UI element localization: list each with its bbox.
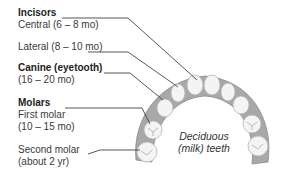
tooth-second-molar-right xyxy=(248,136,268,156)
tooth-first-molar-right xyxy=(243,115,261,133)
label-second-molar: Second molar xyxy=(18,144,80,156)
tooth-first-molar-left xyxy=(144,121,162,139)
tooth-canine-right xyxy=(233,96,249,114)
tooth-canine-left xyxy=(157,99,173,117)
label-incisors-heading: Incisors xyxy=(18,7,56,19)
tooth-central-right xyxy=(204,75,220,95)
label-central-age: Central (6 – 8 mo) xyxy=(18,19,99,31)
leader-molars xyxy=(65,108,150,124)
tooth-second-molar-left xyxy=(137,142,157,162)
label-canine-age: (16 – 20 mo) xyxy=(18,74,75,86)
label-second-molar-age: (about 2 yr) xyxy=(18,156,69,168)
label-molars-heading: Molars xyxy=(18,97,50,109)
caption-deciduous: Deciduous xyxy=(172,130,236,142)
label-first-molar-age: (10 – 15 mo) xyxy=(18,121,75,133)
leader-second-molar xyxy=(88,150,140,154)
label-canine-heading: Canine (eyetooth) xyxy=(18,62,102,74)
leader-canine xyxy=(104,73,163,100)
label-lateral-age: Lateral (8 – 10 mo) xyxy=(18,41,103,53)
label-first-molar: First molar xyxy=(18,109,65,121)
caption-milk-teeth: (milk) teeth xyxy=(170,142,238,154)
tooth-lateral-right xyxy=(221,83,235,101)
